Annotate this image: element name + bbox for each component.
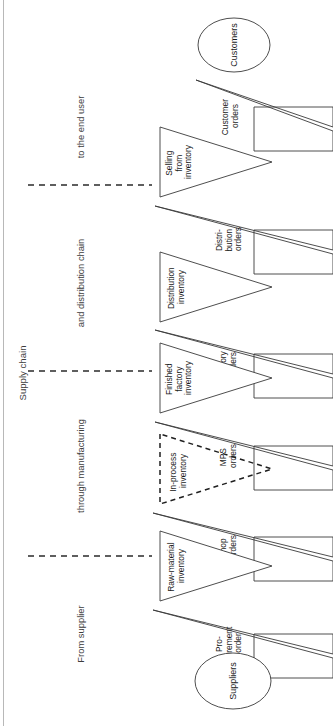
arrow-distribution-orders-label: Distri- bution orders: [214, 226, 243, 251]
section-label-through-manufacturing: through manufacturing: [75, 419, 86, 513]
section-label-from-supplier: From supplier: [75, 605, 86, 662]
diagram-title: Supply chain: [17, 346, 28, 401]
arrow-customer-orders: [196, 80, 333, 151]
triangle-distribution-inventory-label: Distribution inventory: [166, 265, 186, 309]
node-suppliers-label: Suppliers: [228, 662, 238, 700]
section-label-to-the-end-user: to the end user: [75, 96, 86, 159]
triangle-finished-factory-inventory-label: Finished factory inventory: [164, 360, 193, 395]
section-label-and-distribution-chain: and distribution chain: [75, 239, 86, 328]
triangle-in-process-inventory-label: In-process inventory: [168, 450, 188, 491]
arrow-customer-orders-label: Customer orders: [220, 97, 240, 136]
arrow-mps-orders-label: MPS orders: [218, 444, 238, 468]
supply-chain-diagram: Supply chain to the end user and distrib…: [0, 0, 333, 726]
node-customers-label: Customers: [229, 23, 239, 67]
